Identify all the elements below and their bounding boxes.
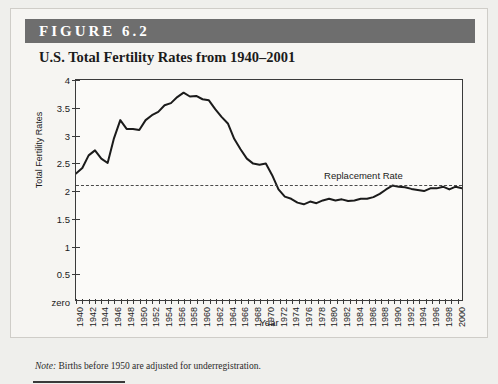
y-axis-tick-label: zero [52, 297, 76, 308]
x-axis-tick-mark [184, 299, 185, 304]
x-axis-tick-mark [203, 299, 204, 304]
x-axis-tick-mark [133, 299, 134, 304]
x-axis-tick-mark [197, 299, 198, 304]
x-axis-tick-mark [445, 299, 446, 304]
x-axis-tick-mark [305, 299, 306, 304]
y-axis-tick-mark [72, 136, 80, 137]
x-axis-tick-mark [311, 299, 312, 304]
series-line-chart [76, 80, 462, 300]
x-axis-tick-mark [381, 299, 382, 304]
x-axis-tick-mark [152, 299, 153, 304]
y-axis-tick-mark [72, 191, 80, 192]
x-axis-title: Year [75, 317, 463, 328]
x-axis-tick-mark [407, 299, 408, 304]
x-axis-tick-mark [419, 299, 420, 304]
x-axis-tick-mark [178, 299, 179, 304]
x-axis-tick-mark [229, 299, 230, 304]
x-axis-tick-mark [114, 299, 115, 304]
x-axis-tick-mark [426, 299, 427, 304]
x-axis-tick-mark [82, 299, 83, 304]
y-axis-tick-mark [72, 247, 80, 248]
figure-container: FIGURE 6.2 U.S. Total Fertility Rates fr… [10, 8, 488, 338]
x-axis-tick-mark [95, 299, 96, 304]
x-axis-tick-mark [375, 299, 376, 304]
x-axis-tick-mark [273, 299, 274, 304]
y-axis-tick-mark [72, 163, 80, 164]
figure-banner-label: FIGURE 6.2 [25, 23, 150, 40]
x-axis-tick-mark [356, 299, 357, 304]
x-axis-tick-mark [318, 299, 319, 304]
x-axis-tick-mark [171, 299, 172, 304]
x-axis-tick-mark [260, 299, 261, 304]
plot-frame: zero0.511.522.533.5419401942194419461948… [75, 79, 463, 301]
x-axis-tick-mark [267, 299, 268, 304]
x-axis-tick-mark [369, 299, 370, 304]
footer-rule [33, 381, 125, 383]
x-axis-tick-mark [210, 299, 211, 304]
x-axis-tick-mark [439, 299, 440, 304]
chart-area: Total Fertility Rates zero0.511.522.533.… [25, 73, 475, 329]
x-axis-tick-mark [241, 299, 242, 304]
y-axis-tick-mark [72, 219, 80, 220]
x-axis-tick-mark [337, 299, 338, 304]
x-axis-tick-mark [330, 299, 331, 304]
x-axis-tick-mark [248, 299, 249, 304]
figure-title: U.S. Total Fertility Rates from 1940–200… [39, 49, 295, 66]
x-axis-tick-mark [451, 299, 452, 304]
x-axis-tick-mark [235, 299, 236, 304]
x-axis-tick-mark [89, 299, 90, 304]
x-axis-tick-mark [146, 299, 147, 304]
x-axis-tick-mark [324, 299, 325, 304]
x-axis-tick-mark [350, 299, 351, 304]
x-axis-tick-mark [343, 299, 344, 304]
x-axis-tick-mark [216, 299, 217, 304]
y-axis-tick-mark [72, 80, 80, 81]
x-axis-tick-mark [76, 299, 77, 304]
x-axis-tick-mark [254, 299, 255, 304]
x-axis-tick-mark [432, 299, 433, 304]
x-axis-tick-mark [127, 299, 128, 304]
x-axis-tick-mark [140, 299, 141, 304]
x-axis-tick-mark [101, 299, 102, 304]
figure-banner: FIGURE 6.2 [25, 19, 475, 43]
x-axis-tick-mark [362, 299, 363, 304]
x-axis-tick-mark [388, 299, 389, 304]
x-axis-tick-mark [413, 299, 414, 304]
x-axis-tick-mark [121, 299, 122, 304]
y-axis-title: Total Fertility Rates [34, 90, 44, 210]
y-axis-tick-mark [72, 274, 80, 275]
fertility-rate-line [76, 93, 462, 205]
x-axis-tick-mark [190, 299, 191, 304]
x-axis-tick-mark [299, 299, 300, 304]
x-axis-tick-mark [400, 299, 401, 304]
x-axis-tick-mark [292, 299, 293, 304]
y-axis-tick-mark [72, 108, 80, 109]
replacement-rate-line [76, 185, 462, 186]
figure-note: Note: Births before 1950 are adjusted fo… [35, 361, 261, 371]
x-axis-tick-mark [458, 299, 459, 304]
figure-note-text: Births before 1950 are adjusted for unde… [56, 361, 261, 371]
replacement-rate-label: Replacement Rate [324, 170, 403, 181]
x-axis-tick-mark [108, 299, 109, 304]
x-axis-tick-mark [165, 299, 166, 304]
figure-note-prefix: Note: [35, 361, 56, 371]
x-axis-tick-mark [222, 299, 223, 304]
x-axis-tick-mark [280, 299, 281, 304]
x-axis-tick-mark [394, 299, 395, 304]
x-axis-tick-mark [159, 299, 160, 304]
x-axis-tick-mark [286, 299, 287, 304]
